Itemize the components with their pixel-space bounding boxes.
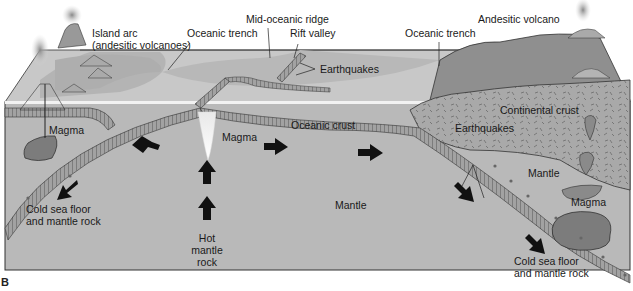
label-mid-oceanic-ridge: Mid-oceanic ridge (246, 13, 329, 25)
label-island-arc-line1: Island arc (92, 27, 191, 39)
label-cold-sea-floor-right: Cold sea floor and mantle rock (514, 255, 589, 279)
label-oceanic-crust: Oceanic crust (291, 119, 355, 131)
plate-tectonics-diagram: Island arc (andesitic volcanoes) Oceanic… (0, 0, 633, 291)
label-earthquakes-top: Earthquakes (320, 63, 379, 75)
earthquake-marker (68, 174, 71, 177)
label-hot-line3: rock (190, 256, 224, 268)
andesitic-volcano-peak (568, 29, 605, 38)
island-volcano-1 (58, 24, 86, 48)
label-cold-right-line2: and mantle rock (514, 267, 589, 279)
volcano-smoke-2 (31, 34, 49, 66)
earthquake-marker (623, 273, 626, 276)
label-continental-crust: Continental crust (500, 104, 579, 116)
label-oceanic-trench-right: Oceanic trench (405, 27, 476, 39)
label-magma-right: Magma (571, 196, 606, 208)
label-andesitic-volcano: Andesitic volcano (478, 13, 560, 25)
label-cold-right-line1: Cold sea floor (514, 255, 589, 267)
earthquake-marker (509, 179, 512, 182)
earthquake-marker (526, 194, 529, 197)
label-island-arc-line2: (andesitic volcanoes) (92, 39, 191, 51)
label-cold-sea-floor-left: Cold sea floor and mantle rock (26, 203, 101, 227)
earthquake-marker (26, 196, 29, 199)
label-cold-left-line1: Cold sea floor (26, 203, 101, 215)
label-magma-left: Magma (49, 124, 84, 136)
label-oceanic-trench-left: Oceanic trench (187, 27, 258, 39)
label-hot-mantle-rock: Hot mantle rock (190, 232, 224, 268)
label-magma-center: Magma (222, 131, 257, 143)
label-mantle-center: Mantle (335, 199, 367, 211)
label-cold-left-line2: and mantle rock (26, 215, 101, 227)
volcano-smoke-1 (62, 5, 82, 25)
earthquake-marker (601, 255, 604, 258)
label-rift-valley: Rift valley (290, 27, 336, 39)
label-earthquakes-mid: Earthquakes (455, 122, 514, 134)
label-mantle-right: Mantle (528, 167, 560, 179)
label-island-arc: Island arc (andesitic volcanoes) (92, 27, 191, 51)
earthquake-marker (579, 236, 582, 239)
earthquake-marker (554, 216, 557, 219)
label-hot-line2: mantle (190, 244, 224, 256)
panel-letter: B (1, 276, 9, 288)
magma-chamber-right (552, 212, 611, 251)
earthquake-marker (493, 164, 496, 167)
label-hot-line1: Hot (190, 232, 224, 244)
volcano-smoke-3 (575, 0, 591, 22)
